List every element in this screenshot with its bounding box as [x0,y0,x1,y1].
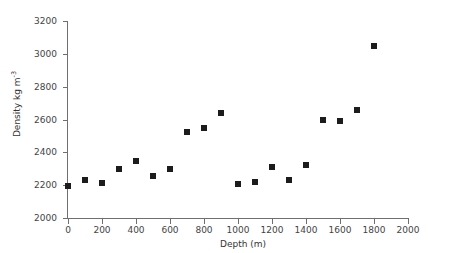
data-point-marker [337,118,343,124]
x-axis-tick [204,219,205,224]
y-axis-tick [63,87,68,88]
data-point-marker [252,179,258,185]
data-point-marker [150,173,156,179]
x-axis-tick [68,219,69,224]
data-point-marker [82,177,88,183]
x-axis-tick-label: 2000 [388,226,428,235]
y-axis-title: Density kg m-3 [10,44,22,164]
data-point-marker [303,162,309,168]
data-point-marker [218,110,224,116]
y-axis-title-text: Density kg m [12,77,22,137]
data-point-marker [116,166,122,172]
y-axis-tick-label: 3000 [29,50,57,59]
x-axis-tick [408,219,409,224]
y-axis-tick-label: 2600 [29,116,57,125]
x-axis-title: Depth (m) [0,239,458,249]
data-point-marker [201,125,207,131]
x-axis-tick [374,219,375,224]
data-point-marker [99,180,105,186]
y-axis-tick-label: 2400 [29,148,57,157]
y-axis-tick [63,54,68,55]
x-axis-tick [306,219,307,224]
data-point-marker [65,183,71,189]
data-point-marker [184,129,190,135]
data-point-marker [354,107,360,113]
data-point-marker [371,43,377,49]
x-axis-tick [238,219,239,224]
x-axis-tick [170,219,171,224]
y-axis-tick [63,120,68,121]
data-point-marker [133,158,139,164]
scatter-chart-figure: 2000220024002600280030003200 02004006008… [0,0,458,253]
y-axis-tick-label: 2800 [29,83,57,92]
x-axis-tick [272,219,273,224]
y-axis-tick-label: 3200 [29,17,57,26]
data-point-marker [269,164,275,170]
y-axis-tick-label: 2200 [29,181,57,190]
y-axis-tick [63,152,68,153]
data-point-marker [286,177,292,183]
x-axis-tick [340,219,341,224]
x-axis-tick [102,219,103,224]
data-point-marker [167,166,173,172]
data-point-marker [320,117,326,123]
data-point-marker [235,181,241,187]
x-axis-tick [136,219,137,224]
y-axis-tick [63,21,68,22]
y-axis-tick-label: 2000 [29,214,57,223]
y-axis-title-exponent: -3 [10,71,18,77]
